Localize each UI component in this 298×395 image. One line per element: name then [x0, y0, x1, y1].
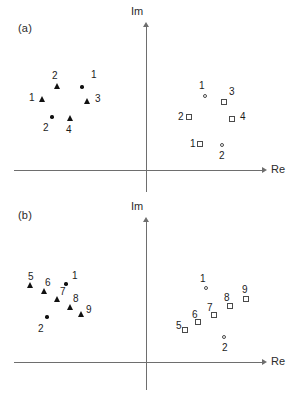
data-point-filled-triangle-6: [41, 288, 47, 294]
data-point-label: 7: [60, 287, 66, 297]
data-point-open-square-8: [227, 303, 232, 308]
data-point-open-square-5: [182, 327, 187, 332]
data-point-label: 9: [242, 285, 248, 295]
data-point-filled-circle-2: [45, 315, 48, 318]
data-point-label: 1: [72, 271, 78, 281]
data-point-label: 6: [192, 310, 198, 320]
data-point-open-square-7: [211, 312, 216, 317]
data-point-open-square-6: [195, 319, 200, 324]
data-point-label: 5: [28, 272, 34, 282]
real-axis-line-b: [14, 362, 262, 363]
real-axis-arrow-b: [262, 359, 267, 365]
imaginary-axis-label-b: Im: [131, 200, 143, 212]
data-point-label: 2: [38, 324, 44, 334]
panel-b: (b)ReIm56789125678912: [0, 0, 298, 395]
data-point-label: 1: [200, 274, 206, 284]
figure-root: (a)ReIm123412123412(b)ReIm56789125678912: [0, 0, 298, 395]
data-point-filled-triangle-7: [54, 296, 60, 302]
data-point-filled-triangle-5: [27, 282, 33, 288]
imaginary-axis-line-b: [146, 222, 147, 390]
data-point-filled-triangle-8: [67, 304, 73, 310]
data-point-label: 2: [222, 343, 228, 353]
panel-label-b: (b): [18, 209, 32, 221]
data-point-label: 8: [73, 294, 79, 304]
imaginary-axis-arrow-b: [143, 217, 149, 222]
data-point-filled-triangle-9: [78, 311, 84, 317]
data-point-label: 9: [86, 305, 92, 315]
data-point-label: 7: [207, 303, 213, 313]
data-point-filled-circle-1: [64, 282, 67, 285]
real-axis-label-b: Re: [271, 355, 285, 367]
data-point-label: 8: [224, 293, 230, 303]
data-point-open-square-9: [243, 296, 248, 301]
data-point-label: 5: [176, 321, 182, 331]
data-point-label: 6: [45, 278, 51, 288]
data-point-open-circle-2: [222, 335, 226, 339]
data-point-open-circle-1: [204, 286, 208, 290]
